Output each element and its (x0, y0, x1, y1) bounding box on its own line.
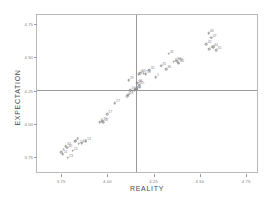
x-tick (61, 174, 62, 177)
data-point-label: 35 (162, 61, 166, 65)
plot-frame: 3.754.004.254.504.75 3.754.004.254.504.7… (36, 14, 258, 173)
x-tick (154, 174, 155, 177)
y-axis-title: EXPECTATION (14, 43, 21, 153)
x-tick-label: 4.25 (149, 179, 158, 184)
data-point-label: 13 (87, 137, 91, 141)
horizontal-reference-line (37, 90, 257, 91)
data-point-label: 17 (108, 110, 112, 114)
y-tick (34, 124, 37, 125)
data-point-label: 40 (180, 59, 184, 63)
data-point-label: 45 (217, 46, 221, 50)
data-point-label: 25 (140, 80, 144, 84)
x-tick-label: 4.75 (242, 179, 251, 184)
vertical-reference-line (136, 15, 137, 172)
x-tick (107, 174, 108, 177)
y-tick-label: 4.50 (24, 55, 33, 60)
data-point-label: 47 (213, 33, 217, 37)
y-tick-label: 4.25 (24, 88, 33, 93)
y-tick (34, 91, 37, 92)
data-point-label: 29 (130, 76, 134, 80)
data-point-label: 11 (64, 150, 68, 154)
y-tick-label: 4.75 (24, 22, 33, 27)
data-point-label: 36 (167, 65, 171, 69)
data-point-label: 41 (170, 49, 174, 53)
x-tick-label: 4.00 (103, 179, 112, 184)
x-axis-title: REALITY (36, 185, 258, 192)
x-tick-label: 4.50 (196, 179, 205, 184)
y-tick (34, 157, 37, 158)
data-point-label: 1 (157, 73, 159, 77)
data-point-label: 23 (69, 153, 73, 157)
y-tick-label: 3.75 (24, 154, 33, 159)
y-tick (34, 24, 37, 25)
data-point-label: 46 (210, 29, 214, 33)
data-point-label: 30 (68, 143, 72, 147)
data-point-label: 32 (151, 66, 155, 70)
data-point-label: 21 (74, 146, 78, 150)
y-tick (34, 57, 37, 58)
scatter-plot-figure: EXPECTATION 3.754.004.254.504.75 3.754.0… (0, 0, 270, 202)
data-point-label: 9 (77, 136, 79, 140)
data-point-label: 27 (116, 99, 120, 103)
y-tick-label: 4.00 (24, 121, 33, 126)
x-tick (200, 174, 201, 177)
x-tick (246, 174, 247, 177)
x-tick-label: 3.75 (57, 179, 66, 184)
data-point-label: 42 (208, 40, 212, 44)
data-point-label: 22 (104, 118, 108, 122)
